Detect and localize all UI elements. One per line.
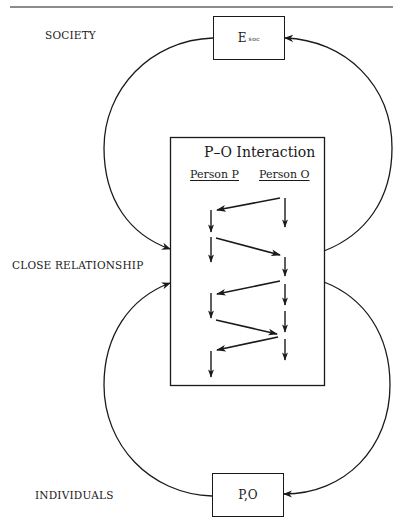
column-head-person-p: Person P [190,168,239,181]
individuals-box: P,O [212,473,284,517]
society-environment-symbol: E [238,31,247,45]
level-label-society: SOCIETY [45,29,96,41]
society-environment-subscript: soc [249,35,261,42]
column-head-person-o: Person O [259,168,310,181]
individuals-box-label: P,O [238,488,257,502]
level-label-individuals: INDIVIDUALS [35,489,114,501]
interaction-title: P–O Interaction [204,144,315,160]
level-label-close-relationship: CLOSE RELATIONSHIP [12,259,143,271]
society-environment-box: Esoc [213,16,285,60]
